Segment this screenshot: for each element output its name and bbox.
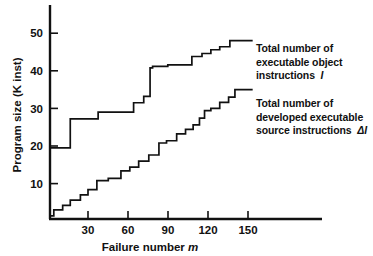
- annotation-object-instructions: Total number of executable object instru…: [256, 42, 342, 83]
- annotation-object-line1: Total number of: [256, 42, 342, 56]
- annotation-object-line3-wrap: instructions I: [256, 69, 342, 83]
- annotation-source-line3: source instructions: [256, 124, 352, 136]
- annotation-object-line2: executable object: [256, 56, 342, 70]
- x-tick-label-150: 150: [238, 224, 257, 236]
- x-axis-title: Failure number m: [102, 241, 199, 253]
- y-tick-label-20: 20: [30, 140, 43, 152]
- x-tick-label-90: 90: [162, 224, 175, 236]
- y-tick-label-40: 40: [30, 65, 43, 77]
- x-tick-label-60: 60: [122, 224, 135, 236]
- y-tick-label-50: 50: [30, 27, 43, 39]
- annotation-object-symbol: I: [321, 69, 324, 81]
- chart-figure: 50 40 30 20 10 30 60 90 120 150 Program …: [0, 0, 373, 256]
- annotation-source-symbol: ΔI: [357, 124, 367, 136]
- annotation-source-line3-wrap: source instructions ΔI: [256, 124, 367, 138]
- y-axis-title: Program size (K inst): [11, 57, 23, 172]
- annotation-source-line2: developed executable: [256, 111, 367, 125]
- series-line-source-instructions: [50, 90, 253, 216]
- y-tick-label-10: 10: [30, 178, 43, 190]
- x-axis-title-main: Failure number: [102, 241, 186, 253]
- x-tick-label-30: 30: [82, 224, 95, 236]
- series-line-object-instructions: [50, 41, 253, 148]
- annotation-source-instructions: Total number of developed executable sou…: [256, 97, 367, 138]
- y-tick-label-30: 30: [30, 103, 43, 115]
- annotation-source-line1: Total number of: [256, 97, 367, 111]
- annotation-object-line3: instructions: [256, 69, 315, 81]
- x-axis-title-symbol: m: [188, 241, 198, 253]
- x-tick-label-120: 120: [198, 224, 217, 236]
